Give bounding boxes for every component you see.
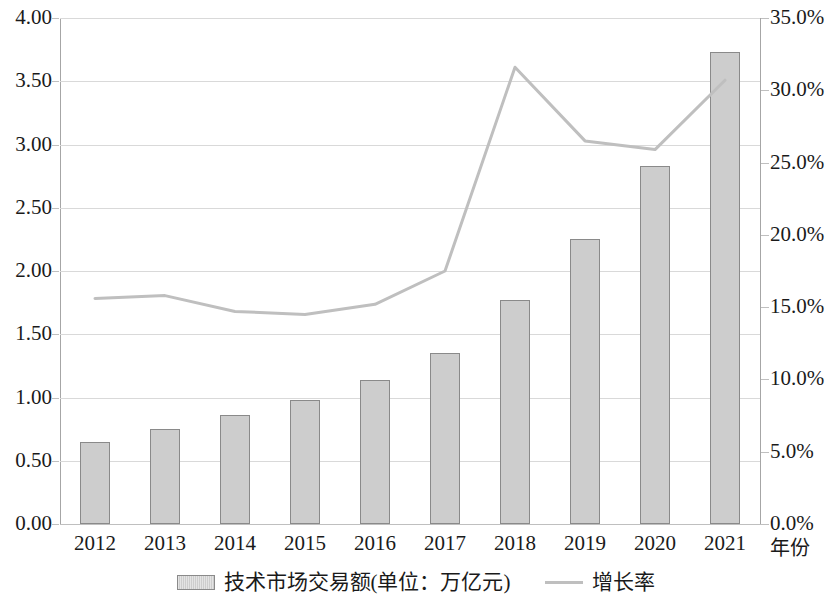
left-axis-tick-mark <box>52 81 59 82</box>
legend-label-bar: 技术市场交易额(单位：万亿元) <box>224 570 511 594</box>
right-axis-line <box>760 18 761 524</box>
x-axis-tick-label: 2020 <box>620 530 690 556</box>
growth-rate-polyline <box>95 67 725 314</box>
right-axis-tick-label: 0.0% <box>770 513 814 534</box>
left-axis-tick-label: 2.00 <box>0 260 52 281</box>
left-axis-tick-mark <box>52 18 59 19</box>
legend-label-line: 增长率 <box>592 570 655 594</box>
x-axis-tick-label: 2018 <box>480 530 550 556</box>
right-axis-tick-label: 10.0% <box>770 368 824 389</box>
left-axis-tick-label: 3.50 <box>0 70 52 91</box>
x-axis-tick-label: 2017 <box>410 530 480 556</box>
left-axis-tick-mark <box>52 334 59 335</box>
right-axis-tick-labels: 0.0%5.0%10.0%15.0%20.0%25.0%30.0%35.0% <box>770 18 831 524</box>
x-axis-tick-label: 2012 <box>60 530 130 556</box>
right-axis-tick-mark <box>761 163 769 164</box>
right-axis-tick-label: 35.0% <box>770 7 824 28</box>
right-axis-tick-mark <box>761 235 769 236</box>
right-axis-tick-mark <box>761 90 769 91</box>
growth-rate-line-series <box>60 18 760 524</box>
x-axis-tick-label: 2015 <box>270 530 340 556</box>
left-axis-tick-labels: 0.000.501.001.502.002.503.003.504.00 <box>0 18 52 524</box>
plot-area <box>60 18 760 524</box>
bar-swatch-icon <box>177 575 215 590</box>
chart-legend: 技术市场交易额(单位：万亿元) 增长率 <box>0 570 831 594</box>
x-axis-tick-label: 2013 <box>130 530 200 556</box>
right-axis-tick-mark <box>761 379 769 380</box>
x-axis-tick-label: 2021 <box>690 530 760 556</box>
line-swatch-icon <box>545 581 583 584</box>
left-axis-tick-label: 0.50 <box>0 450 52 471</box>
left-axis-tick-label: 2.50 <box>0 197 52 218</box>
x-axis-line <box>60 524 761 525</box>
x-axis-tick-label: 2016 <box>340 530 410 556</box>
right-axis-tick-mark <box>761 524 769 525</box>
right-axis-tick-label: 20.0% <box>770 224 824 245</box>
x-axis-title: 年份 <box>770 535 810 561</box>
left-axis-tick-label: 1.00 <box>0 387 52 408</box>
left-axis-tick-label: 4.00 <box>0 7 52 28</box>
left-axis-tick-mark <box>52 461 59 462</box>
right-axis-tick-mark <box>761 18 769 19</box>
legend-item-line: 增长率 <box>545 570 655 594</box>
left-axis-tick-mark <box>52 271 59 272</box>
x-axis-tick-label: 2019 <box>550 530 620 556</box>
legend-item-bar: 技术市场交易额(单位：万亿元) <box>177 570 511 594</box>
x-axis-tick-labels: 2012201320142015201620172018201920202021 <box>60 530 760 560</box>
left-axis-tick-mark <box>52 524 59 525</box>
left-axis-tick-label: 0.00 <box>0 513 52 534</box>
x-axis-tick-label: 2014 <box>200 530 270 556</box>
right-axis-tick-label: 15.0% <box>770 296 824 317</box>
left-axis-tick-mark <box>52 398 59 399</box>
right-axis-tick-label: 5.0% <box>770 441 814 462</box>
right-axis-tick-mark <box>761 307 769 308</box>
left-axis-tick-label: 3.00 <box>0 134 52 155</box>
right-axis-tick-label: 25.0% <box>770 152 824 173</box>
chart-container: 0.000.501.001.502.002.503.003.504.00 0.0… <box>0 0 831 602</box>
left-axis-tick-label: 1.50 <box>0 323 52 344</box>
left-axis-tick-mark <box>52 208 59 209</box>
right-axis-tick-label: 30.0% <box>770 79 824 100</box>
right-axis-tick-mark <box>761 452 769 453</box>
left-axis-tick-mark <box>52 145 59 146</box>
